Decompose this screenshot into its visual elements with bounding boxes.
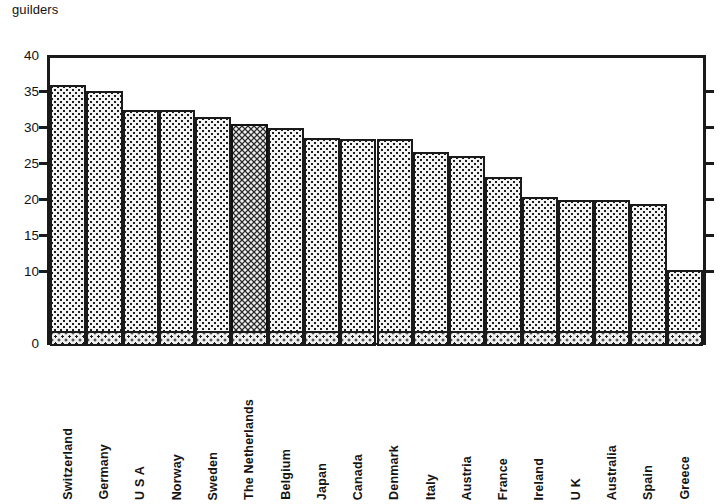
- bar-series: [50, 55, 703, 343]
- base-band-segment: [630, 331, 666, 346]
- x-axis-label-text: Spain: [642, 465, 655, 500]
- x-axis-label-text: Greece: [679, 456, 692, 500]
- y-axis-label-15: 15: [24, 228, 39, 243]
- bar-column: [86, 55, 122, 343]
- bar-column: [195, 55, 231, 343]
- x-axis-label-japan: Japan: [304, 350, 340, 500]
- bar-column: [594, 55, 630, 343]
- y-axis-tick-30: [39, 126, 50, 129]
- x-axis-label-u-s-a: U S A: [123, 350, 159, 500]
- x-axis-label-belgium: Belgium: [268, 350, 304, 500]
- bar-column: [449, 55, 485, 343]
- y-axis-tick-right-20: [703, 198, 714, 201]
- x-axis-label-text: U S A: [134, 466, 147, 500]
- base-band-segment: [231, 331, 267, 346]
- bar-column: [377, 55, 413, 343]
- base-band-segment: [522, 331, 558, 346]
- y-axis-tick-right-35: [703, 90, 714, 93]
- y-axis-tick-10: [39, 270, 50, 273]
- base-band-segment: [413, 331, 449, 346]
- y-axis-tick-25: [39, 162, 50, 165]
- x-axis-label-italy: Italy: [413, 350, 449, 500]
- bar-the-netherlands[interactable]: [231, 124, 267, 343]
- x-axis-label-text: Japan: [316, 463, 329, 500]
- y-axis-label-35: 35: [24, 84, 39, 99]
- base-band-segment: [86, 331, 122, 346]
- base-band-segment: [268, 331, 304, 346]
- bar-column: [50, 55, 86, 343]
- bar-norway[interactable]: [159, 110, 195, 343]
- x-axis-label-austria: Austria: [449, 350, 485, 500]
- y-axis-label-0: 0: [31, 336, 39, 351]
- bar-column: [413, 55, 449, 343]
- bar-u-k[interactable]: [558, 200, 594, 343]
- bar-austria[interactable]: [449, 156, 485, 343]
- x-axis-label-denmark: Denmark: [377, 350, 413, 500]
- bar-germany[interactable]: [86, 91, 122, 343]
- x-axis-label-text: Norway: [171, 454, 184, 500]
- axis-base-band: [47, 331, 706, 346]
- x-axis-label-text: The Netherlands: [243, 399, 256, 500]
- x-axis-label-the-netherlands: The Netherlands: [231, 350, 267, 500]
- x-axis-label-text: Austria: [461, 456, 474, 500]
- y-axis-tick-20: [39, 198, 50, 201]
- bar-denmark[interactable]: [377, 139, 413, 343]
- bar-belgium[interactable]: [268, 128, 304, 343]
- x-axis-label-sweden: Sweden: [195, 350, 231, 500]
- base-band-segment: [449, 331, 485, 346]
- base-band-segment: [304, 331, 340, 346]
- bar-japan[interactable]: [304, 138, 340, 343]
- x-axis-label-text: France: [497, 458, 510, 500]
- x-axis-label-switzerland: Switzerland: [50, 350, 86, 500]
- bar-column: [340, 55, 376, 343]
- x-axis-label-greece: Greece: [667, 350, 703, 500]
- y-axis-unit-caption: guilders: [12, 2, 58, 17]
- base-band-segment: [123, 331, 159, 346]
- bar-canada[interactable]: [340, 139, 376, 343]
- base-band-segment: [159, 331, 195, 346]
- bar-sweden[interactable]: [195, 117, 231, 343]
- bar-column: [485, 55, 521, 343]
- base-band-segment: [594, 331, 630, 346]
- bar-column: [159, 55, 195, 343]
- base-band-segment: [340, 331, 376, 346]
- bar-column: [667, 55, 703, 343]
- bar-u-s-a[interactable]: [123, 110, 159, 343]
- x-axis-label-text: Switzerland: [62, 428, 75, 500]
- x-axis-label-australia: Australia: [594, 350, 630, 500]
- base-band-segment: [558, 331, 594, 346]
- x-axis-label-text: Germany: [98, 444, 111, 500]
- x-axis-label-france: France: [485, 350, 521, 500]
- bar-column: [304, 55, 340, 343]
- bar-column: [558, 55, 594, 343]
- x-axis-category-labels: SwitzerlandGermanyU S ANorwaySwedenThe N…: [47, 350, 706, 500]
- base-band-segment: [485, 331, 521, 346]
- x-axis-label-text: Ireland: [533, 458, 546, 500]
- x-axis-label-germany: Germany: [86, 350, 122, 500]
- x-axis-label-text: Italy: [425, 474, 438, 500]
- y-axis-label-25: 25: [24, 156, 39, 171]
- bar-ireland[interactable]: [522, 197, 558, 343]
- y-axis-tick-right-30: [703, 126, 714, 129]
- y-axis-label-10: 10: [24, 264, 39, 279]
- bar-italy[interactable]: [413, 152, 449, 343]
- base-band-segment: [377, 331, 413, 346]
- y-axis-tick-15: [39, 234, 50, 237]
- bar-switzerland[interactable]: [50, 85, 86, 343]
- bar-column: [268, 55, 304, 343]
- bar-column: [522, 55, 558, 343]
- x-axis-label-text: U K: [570, 478, 583, 500]
- y-axis-label-40: 40: [24, 48, 39, 63]
- y-axis-label-20: 20: [24, 192, 39, 207]
- x-axis-label-text: Canada: [352, 454, 365, 500]
- y-axis-label-30: 30: [24, 120, 39, 135]
- bar-australia[interactable]: [594, 200, 630, 343]
- bar-column: [123, 55, 159, 343]
- base-band-segment: [667, 331, 703, 346]
- x-axis-label-spain: Spain: [630, 350, 666, 500]
- bar-france[interactable]: [485, 177, 521, 343]
- bar-spain[interactable]: [630, 204, 666, 343]
- bar-chart-figure: guilders 403530252015100 SwitzerlandGerm…: [0, 0, 728, 504]
- y-axis-tick-right-25: [703, 162, 714, 165]
- x-axis-label-norway: Norway: [159, 350, 195, 500]
